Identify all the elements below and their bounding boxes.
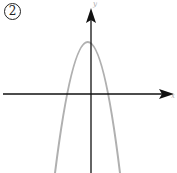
coordinate-plane	[0, 0, 177, 173]
parabola-curve	[55, 42, 120, 173]
